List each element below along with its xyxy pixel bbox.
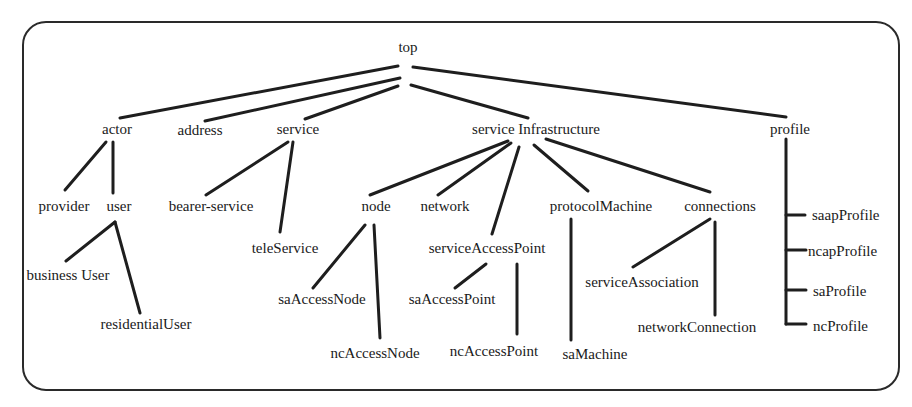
- tree-node-businessUser: business User: [27, 266, 110, 284]
- edge-service-teleService: [280, 142, 293, 232]
- tree-node-profile: profile: [770, 120, 810, 138]
- tree-node-user: user: [107, 197, 132, 215]
- edge-actor-provider: [65, 142, 106, 190]
- edge-node-saAccessNode: [313, 225, 365, 288]
- edge-serviceInfrastructure-serviceAccessPoint: [492, 147, 519, 234]
- edge-top-service: [305, 86, 398, 119]
- tree-node-actor: actor: [102, 120, 132, 138]
- tree-node-ncProfile: ncProfile: [813, 317, 868, 335]
- edge-connections-serviceAssociation: [633, 219, 710, 267]
- tree-node-connections: connections: [684, 197, 756, 215]
- edge-serviceInfrastructure-connections: [546, 139, 710, 192]
- tree-node-networkConnection: networkConnection: [638, 318, 756, 336]
- edge-node-ncAccessNode: [374, 225, 380, 338]
- tree-node-ncAccessNode: ncAccessNode: [330, 344, 419, 362]
- tree-node-ncAccessPoint: ncAccessPoint: [450, 342, 538, 360]
- edge-user-businessUser: [66, 222, 115, 261]
- edge-serviceInfrastructure-network: [438, 143, 511, 195]
- profile-bracket: [786, 139, 806, 324]
- tree-node-saMachine: saMachine: [563, 345, 628, 363]
- tree-node-serviceAssociation: serviceAssociation: [585, 273, 698, 291]
- tree-node-top: top: [398, 38, 417, 56]
- edge-user-residentialUser: [115, 222, 140, 313]
- tree-node-network: network: [420, 197, 469, 215]
- tree-node-service: service: [277, 120, 319, 138]
- edge-top-serviceInfrastructure: [411, 85, 528, 118]
- tree-node-residentialUser: residentialUser: [101, 315, 192, 333]
- tree-node-teleService: teleService: [252, 239, 319, 257]
- tree-node-serviceAccessPoint: serviceAccessPoint: [429, 239, 546, 257]
- edge-serviceInfrastructure-node: [370, 141, 508, 195]
- tree-node-protocolMachine: protocolMachine: [550, 197, 652, 215]
- edge-serviceAccessPoint-saAccessPoint: [455, 264, 486, 288]
- tree-node-ncapProfile: ncapProfile: [808, 242, 877, 260]
- tree-node-saAccessNode: saAccessNode: [278, 290, 365, 308]
- tree-node-saapProfile: saapProfile: [812, 206, 879, 224]
- tree-node-address: address: [178, 121, 223, 139]
- tree-node-bearerService: bearer-service: [169, 197, 254, 215]
- edge-service-bearerService: [206, 142, 288, 195]
- tree-node-node: node: [361, 197, 390, 215]
- tree-node-saAccessPoint: saAccessPoint: [409, 290, 496, 308]
- edge-serviceInfrastructure-protocolMachine: [534, 145, 588, 191]
- edge-top-profile: [413, 67, 786, 117]
- tree-node-provider: provider: [39, 197, 90, 215]
- tree-node-serviceInfrastructure: service Infrastructure: [472, 120, 600, 138]
- tree-node-saProfile: saProfile: [813, 282, 866, 300]
